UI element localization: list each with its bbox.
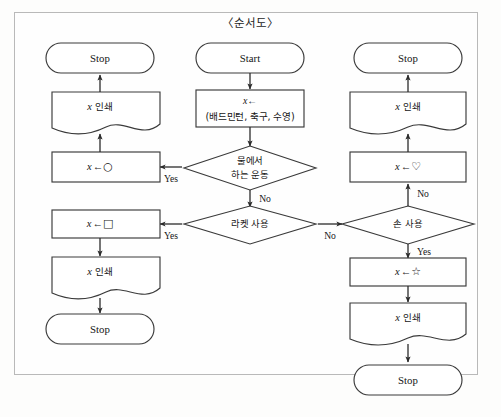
- node-decision-racket: [184, 206, 316, 244]
- node-init: [196, 90, 304, 127]
- node-assign-circle: [52, 152, 160, 182]
- node-print-circle: [52, 92, 160, 134]
- node-stop-left-top: [46, 43, 154, 73]
- node-print-star: [350, 303, 466, 345]
- node-stop-left-bottom: [46, 314, 154, 344]
- node-assign-star: [350, 258, 466, 286]
- node-stop-right-top: [354, 43, 462, 73]
- node-start: [196, 43, 304, 73]
- scanned-page: 〈순서도〉: [0, 0, 501, 417]
- node-assign-heart: [350, 152, 466, 182]
- node-decision-water: [184, 146, 316, 190]
- node-decision-hand: [342, 206, 474, 244]
- node-stop-right-bottom: [354, 365, 462, 395]
- flowchart-canvas: [0, 0, 501, 417]
- node-assign-square: [52, 210, 160, 238]
- node-print-square: [52, 257, 160, 299]
- node-print-heart: [350, 92, 466, 134]
